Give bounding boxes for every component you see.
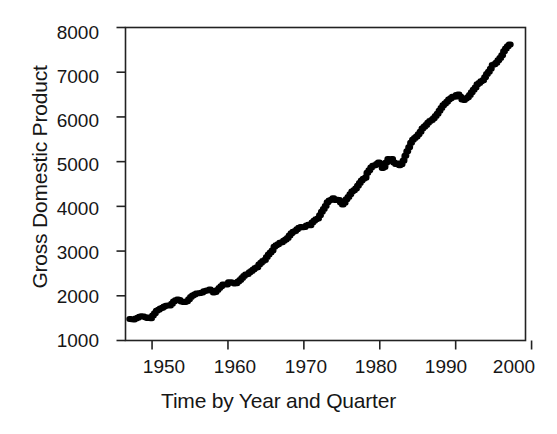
plot-frame [126,28,526,341]
axis-frame [126,28,526,341]
plot-area [0,0,557,434]
gdp-series-line [129,44,510,319]
gdp-line-chart: Gross Domestic Product 8000 7000 6000 50… [0,0,557,434]
y-axis-ticks [117,28,126,341]
x-axis-ticks [152,341,532,350]
